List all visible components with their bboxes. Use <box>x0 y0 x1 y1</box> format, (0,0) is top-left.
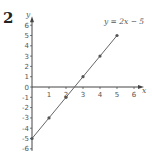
y-tick-label: -5 <box>22 135 29 143</box>
y-tick-label: -6 <box>22 145 30 153</box>
data-point <box>98 55 101 58</box>
data-point <box>115 34 118 37</box>
data-point <box>81 75 84 78</box>
x-tick-label: 1 <box>47 91 51 99</box>
y-tick-label: 3 <box>25 53 29 61</box>
data-point <box>30 137 33 140</box>
x-tick-label: 5 <box>115 91 119 99</box>
data-point <box>64 96 67 99</box>
x-tick-label: 3 <box>81 91 85 99</box>
y-axis-label: y <box>25 10 31 19</box>
y-tick-label: 4 <box>25 42 30 50</box>
x-tick-label: 6 <box>132 91 137 99</box>
y-tick-label: 1 <box>25 73 29 81</box>
y-tick-label: -4 <box>22 125 30 133</box>
data-point <box>47 116 50 119</box>
y-axis-arrow-icon <box>30 16 34 22</box>
equation-label: y = 2x − 5 <box>103 17 144 26</box>
y-tick-label: 6 <box>25 22 30 30</box>
line-chart: yx6543210-1-2-3-4-5-6123456y = 2x − 5 <box>0 0 152 155</box>
y-tick-label: -2 <box>22 104 29 112</box>
y-tick-label: 2 <box>25 63 29 71</box>
x-axis-label: x <box>142 86 147 95</box>
y-tick-label: 5 <box>25 32 29 40</box>
y-tick-label: -3 <box>22 114 29 122</box>
y-tick-label: 0 <box>25 84 29 92</box>
x-tick-label: 4 <box>98 91 103 99</box>
y-tick-label: -1 <box>22 94 29 102</box>
